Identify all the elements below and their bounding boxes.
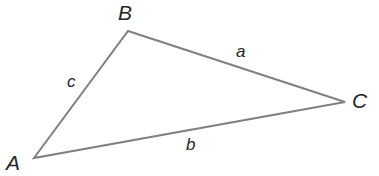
side-label-c: c: [67, 73, 76, 90]
side-label-a: a: [236, 43, 245, 60]
side-label-b: b: [186, 136, 195, 153]
vertex-label-b: B: [118, 2, 132, 23]
vertex-label-a: A: [6, 152, 20, 173]
triangle-figure: A B C a b c: [0, 0, 379, 176]
vertex-label-c: C: [352, 90, 367, 111]
